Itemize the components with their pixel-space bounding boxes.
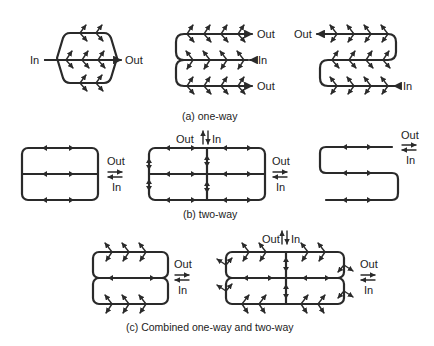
panel-a-one-way: In Out Out bbox=[30, 25, 412, 122]
label-side-out: Out bbox=[272, 155, 290, 167]
label-in: In bbox=[258, 54, 267, 66]
label-out: Out bbox=[174, 258, 192, 270]
label-in: In bbox=[112, 181, 121, 193]
label-out-bottom: Out bbox=[257, 80, 275, 92]
label-top-out: Out bbox=[176, 133, 194, 145]
label-top-out: Out bbox=[262, 233, 280, 245]
label-out: Out bbox=[107, 155, 125, 167]
label-in: In bbox=[406, 154, 415, 166]
diagram-c2-double-loop-cross: Out In Out In bbox=[217, 231, 378, 313]
label-side-in: In bbox=[276, 181, 285, 193]
diagram-b2-rect-cross: Out In Out In bbox=[146, 131, 290, 203]
diagram-b3-serpentine: Out In bbox=[320, 129, 419, 203]
label-top-in: In bbox=[212, 133, 221, 145]
caption-b: (b) two-way bbox=[183, 208, 238, 220]
label-out-top: Out bbox=[257, 28, 275, 40]
label-top-in: In bbox=[291, 233, 300, 245]
label-in: In bbox=[403, 80, 412, 92]
label-in: In bbox=[30, 54, 39, 66]
diagram-c1-double-loop: Out In bbox=[93, 243, 192, 313]
caption-a: (a) one-way bbox=[182, 110, 238, 122]
airflow-distribution-diagram: In Out Out bbox=[0, 0, 434, 346]
label-out: Out bbox=[125, 54, 143, 66]
panel-b-two-way: Out In Out In bbox=[22, 129, 419, 220]
diagram-b1-rect: Out In bbox=[22, 145, 125, 203]
label-out: Out bbox=[294, 28, 312, 40]
label-side-out: Out bbox=[360, 258, 378, 270]
panel-c-combined: Out In bbox=[93, 231, 378, 333]
label-in: In bbox=[178, 284, 187, 296]
diagram-a1-hexagon: In Out bbox=[30, 25, 143, 91]
diagram-a3-serpentine: Out In bbox=[294, 25, 412, 94]
diagram-a2-e-shape: Out In Out bbox=[176, 25, 275, 94]
caption-c: (c) Combined one-way and two-way bbox=[126, 321, 294, 333]
label-side-in: In bbox=[364, 284, 373, 296]
label-out: Out bbox=[401, 129, 419, 141]
